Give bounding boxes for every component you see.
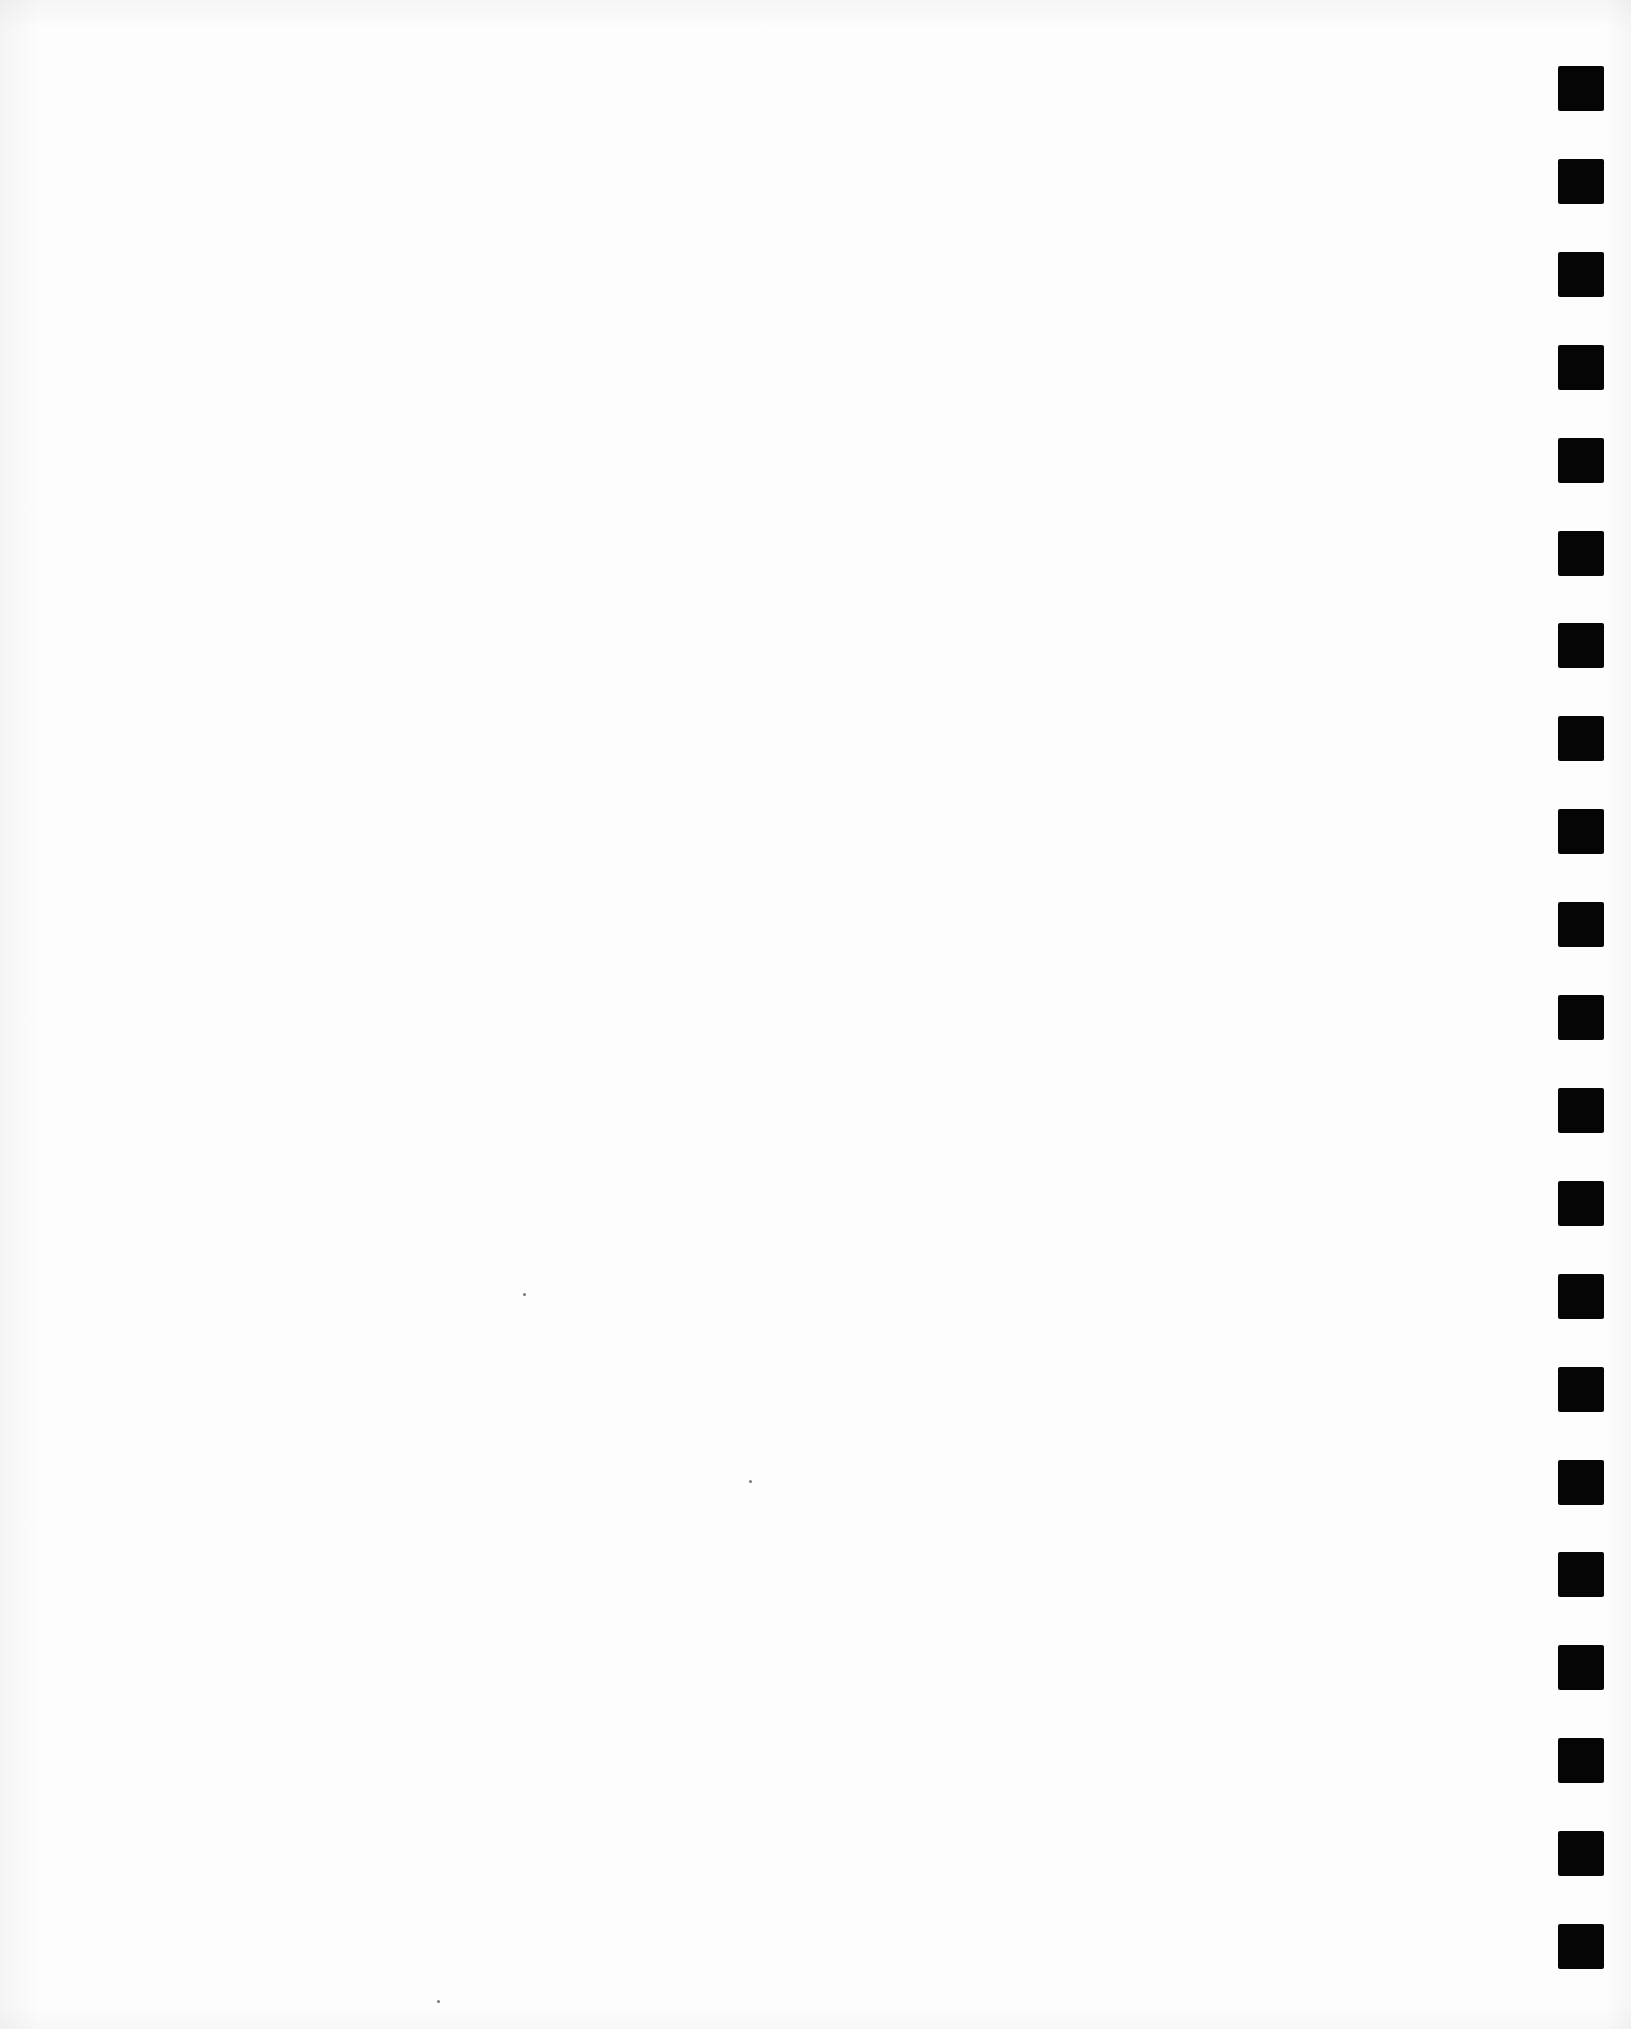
binding-hole-mark [1558,438,1604,483]
binding-punch-strip [1558,0,1606,2029]
binding-hole-mark [1558,623,1604,668]
binding-hole-mark [1558,1924,1604,1969]
binding-hole-mark [1558,1367,1604,1412]
binding-hole-mark [1558,1181,1604,1226]
binding-hole-mark [1558,716,1604,761]
binding-hole-mark [1558,1088,1604,1133]
binding-hole-mark [1558,345,1604,390]
binding-hole-mark [1558,902,1604,947]
binding-hole-mark [1558,1274,1604,1319]
dust-speck [749,1480,752,1483]
binding-hole-mark [1558,66,1604,111]
binding-hole-mark [1558,1738,1604,1783]
binding-hole-mark [1558,531,1604,576]
dust-speck [523,1293,526,1296]
binding-hole-mark [1558,995,1604,1040]
binding-hole-mark [1558,252,1604,297]
binding-hole-mark [1558,1645,1604,1690]
binding-hole-mark [1558,1552,1604,1597]
dust-speck [437,2000,440,2003]
binding-hole-mark [1558,1831,1604,1876]
blank-document-page [0,0,1631,2029]
binding-hole-mark [1558,1460,1604,1505]
binding-hole-mark [1558,159,1604,204]
binding-hole-mark [1558,809,1604,854]
